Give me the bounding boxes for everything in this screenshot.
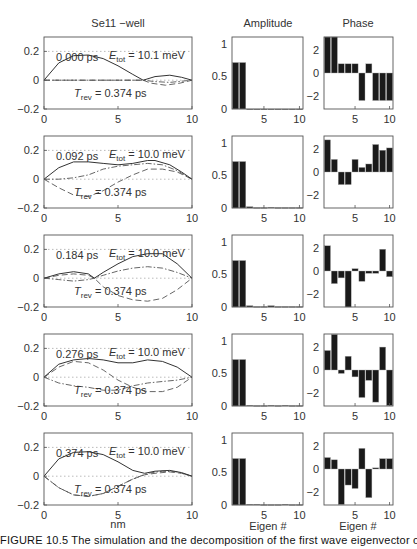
x-tick-label: 10 — [383, 509, 395, 521]
amplitude-column-title: Amplitude — [244, 17, 293, 29]
bar — [366, 370, 372, 380]
bar — [240, 162, 246, 208]
x-tick-label: 10 — [383, 212, 395, 224]
y-tick-label: 0.2 — [24, 441, 39, 453]
x-tick-label: 10 — [293, 212, 305, 224]
bar — [387, 370, 393, 406]
y-tick-label: −2 — [306, 189, 319, 201]
y-tick-label: 0 — [33, 371, 39, 383]
bar — [232, 459, 238, 505]
bar — [240, 360, 246, 406]
bar — [331, 271, 337, 284]
bar — [338, 271, 344, 278]
bar — [380, 347, 386, 370]
x-tick-label: 10 — [293, 410, 305, 422]
y-tick-label: 1 — [221, 38, 227, 50]
y-tick-label: −2 — [306, 486, 319, 498]
bar — [352, 370, 358, 377]
x-tick-label: 10 — [186, 311, 198, 323]
bar — [232, 63, 238, 109]
x-tick-label: 0 — [41, 113, 47, 125]
y-tick-label: 1 — [221, 434, 227, 446]
real-part-line — [44, 80, 192, 85]
bar — [324, 351, 330, 370]
x-tick-label: 10 — [383, 410, 395, 422]
y-tick-label: 0.5 — [212, 268, 227, 280]
wave-x-label: nm — [110, 518, 125, 530]
amplitude-panel: 00.51510 — [212, 136, 306, 224]
y-tick-label: −0.2 — [17, 400, 39, 412]
y-tick-label: −2 — [306, 90, 319, 102]
bar — [359, 448, 365, 469]
y-tick-label: 0 — [313, 463, 319, 475]
x-tick-label: 10 — [293, 113, 305, 125]
x-tick-label: 5 — [261, 212, 267, 224]
y-tick-label: 0.2 — [24, 243, 39, 255]
magnitude-line — [44, 359, 192, 378]
figure-canvas: Se11 −well Amplitude Phase −0.200.205100… — [0, 0, 417, 549]
x-tick-label: 10 — [383, 113, 395, 125]
y-tick-label: 0 — [313, 166, 319, 178]
y-tick-label: 0 — [33, 173, 39, 185]
y-tick-label: 0 — [221, 202, 227, 214]
x-tick-label: 5 — [115, 311, 121, 323]
bar — [387, 459, 393, 469]
bar — [359, 271, 365, 281]
x-tick-label: 10 — [186, 410, 198, 422]
bar — [352, 159, 358, 172]
x-tick-label: 10 — [383, 311, 395, 323]
wave-column-title: Se11 −well — [91, 17, 144, 29]
y-tick-label: 0 — [33, 272, 39, 284]
bar — [324, 246, 330, 271]
bar — [338, 172, 344, 185]
figure-caption: FIGURE 10.5 The simulation and the decom… — [0, 534, 417, 546]
y-tick-label: −0.2 — [17, 202, 39, 214]
bar — [345, 356, 351, 370]
y-tick-label: 2 — [313, 242, 319, 254]
bar — [345, 64, 351, 73]
y-tick-label: 0 — [33, 470, 39, 482]
bar — [232, 162, 238, 208]
x-tick-label: 5 — [261, 410, 267, 422]
x-tick-label: 5 — [115, 212, 121, 224]
amplitude-panel: 00.51510 — [212, 37, 306, 125]
phase-x-label: Eigen # — [339, 520, 377, 532]
phase-panel: −202510 — [306, 37, 395, 125]
y-tick-label: −0.2 — [17, 301, 39, 313]
bar — [324, 37, 330, 73]
bar — [240, 63, 246, 109]
revival-time-label: Trev = 0.374 ps — [74, 483, 147, 498]
x-tick-label: 5 — [115, 410, 121, 422]
bar — [359, 167, 365, 172]
y-tick-label: 0 — [313, 364, 319, 376]
x-tick-label: 5 — [352, 311, 358, 323]
phase-panel: −202510 — [306, 136, 395, 224]
phase-panel: −202510 — [306, 334, 395, 422]
bar — [331, 460, 337, 469]
x-tick-label: 5 — [261, 311, 267, 323]
bar — [338, 370, 344, 373]
wave-panel: −0.200.205100.092 psEtot = 10.0 meVTrev … — [17, 136, 198, 224]
amplitude-x-label: Eigen # — [249, 520, 287, 532]
bar — [338, 64, 344, 73]
amplitude-panel: 00.51510 — [212, 334, 306, 422]
revival-time-label: Trev = 0.374 ps — [74, 186, 147, 201]
imag-part-line — [44, 163, 192, 179]
bar — [240, 459, 246, 505]
bar — [345, 172, 351, 185]
x-tick-label: 10 — [293, 311, 305, 323]
x-tick-label: 10 — [186, 113, 198, 125]
bar — [338, 469, 344, 505]
bar — [240, 261, 246, 307]
imag-part-line — [44, 267, 192, 281]
time-label: 0.276 ps — [56, 348, 99, 360]
wave-panel: −0.200.205100.184 psEtot = 10.0 meVTrev … — [17, 235, 198, 323]
bar — [345, 469, 351, 485]
y-tick-label: 1 — [221, 236, 227, 248]
wave-panel: −0.200.205100.374 psEtot = 10.0 meVTrev … — [17, 433, 198, 521]
x-tick-label: 5 — [261, 113, 267, 125]
bar — [373, 370, 379, 402]
x-tick-label: 5 — [115, 113, 121, 125]
phase-column-title: Phase — [342, 17, 373, 29]
time-label: 0.000 ps — [56, 51, 99, 63]
